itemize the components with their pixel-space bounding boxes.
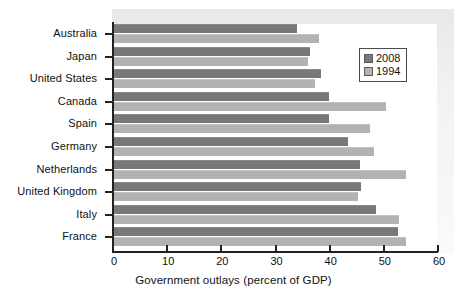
bar-france-2008 <box>113 227 398 236</box>
y-tick <box>105 169 113 171</box>
bar-group <box>113 160 438 180</box>
bar-germany-1994 <box>113 147 374 156</box>
bar-canada-2008 <box>113 92 329 101</box>
bar-group <box>113 114 438 134</box>
bar-italy-1994 <box>113 215 399 224</box>
bar-australia-1994 <box>113 34 319 43</box>
bar-group <box>113 92 438 112</box>
bar-germany-2008 <box>113 137 348 146</box>
bar-group <box>113 182 438 202</box>
y-tick <box>105 33 113 35</box>
x-tick-label-10: 10 <box>153 255 183 267</box>
x-tick-label-20: 20 <box>207 255 237 267</box>
y-label-united-states: United States <box>30 73 97 84</box>
y-tick <box>105 101 113 103</box>
x-tick-20 <box>220 245 222 252</box>
y-tick <box>105 146 113 148</box>
legend-swatch-2008 <box>364 54 373 63</box>
bar-netherlands-1994 <box>113 170 406 179</box>
bar-netherlands-2008 <box>113 160 360 169</box>
y-tick <box>105 191 113 193</box>
x-tick-60 <box>437 245 439 252</box>
bar-spain-1994 <box>113 124 370 133</box>
y-label-united-kingdom: United Kingdom <box>17 186 97 197</box>
y-label-france: France <box>62 231 97 242</box>
x-tick-label-40: 40 <box>316 255 346 267</box>
bar-japan-1994 <box>113 57 308 66</box>
x-tick-50 <box>383 245 385 252</box>
legend-entry-2008: 2008 <box>364 52 400 65</box>
x-tick-40 <box>329 245 331 252</box>
y-label-netherlands: Netherlands <box>37 164 97 175</box>
x-tick-0 <box>112 245 114 252</box>
bar-united-states-2008 <box>113 69 321 78</box>
y-label-italy: Italy <box>76 209 97 220</box>
y-label-canada: Canada <box>58 96 97 107</box>
x-tick-label-60: 60 <box>424 255 454 267</box>
legend-label-2008: 2008 <box>376 53 400 64</box>
x-tick-30 <box>275 245 277 252</box>
y-tick <box>105 123 113 125</box>
y-tick <box>105 78 113 80</box>
bar-italy-2008 <box>113 205 376 214</box>
bar-group <box>113 205 438 225</box>
y-tick <box>105 214 113 216</box>
bar-australia-2008 <box>113 24 297 33</box>
legend-entry-1994: 1994 <box>364 65 400 78</box>
figure-bar-chart: AustraliaJapanUnited StatesCanadaSpainGe… <box>0 0 467 296</box>
bar-united-kingdom-2008 <box>113 182 361 191</box>
y-tick <box>105 56 113 58</box>
bar-group <box>113 137 438 157</box>
bar-group <box>113 24 438 44</box>
y-label-germany: Germany <box>51 141 97 152</box>
bar-united-kingdom-1994 <box>113 192 358 201</box>
y-label-australia: Australia <box>53 28 97 39</box>
x-tick-label-50: 50 <box>370 255 400 267</box>
bar-united-states-1994 <box>113 79 315 88</box>
legend-swatch-1994 <box>364 67 373 76</box>
clipped-top-caption <box>0 0 467 8</box>
x-tick-label-0: 0 <box>99 255 129 267</box>
x-tick-label-30: 30 <box>262 255 292 267</box>
x-axis-title: Government outlays (percent of GDP) <box>0 274 467 286</box>
bar-japan-2008 <box>113 47 310 56</box>
bar-france-1994 <box>113 237 406 246</box>
legend-label-1994: 1994 <box>376 66 400 77</box>
bar-spain-2008 <box>113 114 329 123</box>
bar-canada-1994 <box>113 102 386 111</box>
x-tick-10 <box>166 245 168 252</box>
y-label-japan: Japan <box>67 51 97 62</box>
y-tick <box>105 236 113 238</box>
y-label-spain: Spain <box>68 118 97 129</box>
chart-legend: 20081994 <box>359 48 407 82</box>
